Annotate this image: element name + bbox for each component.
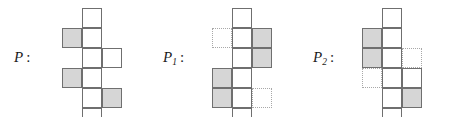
panel-p-cell-r2c1 [82, 48, 102, 68]
panel-p-cell-r2c2 [102, 48, 122, 68]
panel-p1-cell-r5c1 [232, 108, 252, 117]
panel-p2-cell-r4c1 [382, 88, 402, 108]
panel-p2-cell-r0c1 [382, 8, 402, 28]
panel-p2-cell-r3c1 [382, 68, 402, 88]
panel-p-cell-r5c1 [82, 108, 102, 117]
panel-p2-cell-r4c2-shaded [402, 88, 422, 108]
panel-p-grid [62, 8, 122, 117]
panel-p1-cell-r4c2-dotted [252, 88, 272, 108]
panel-p1-cell-r3c1 [232, 68, 252, 88]
panel-p-label-base: P [14, 49, 23, 65]
panel-p1-cell-r4c0-shaded [212, 88, 232, 108]
panel-p-cell-r1c1 [82, 28, 102, 48]
panel-p1-label: P1: [163, 50, 184, 68]
panel-p1-cell-r1c1 [232, 28, 252, 48]
panel-p-cell-r0c1 [82, 8, 102, 28]
panel-p1-cell-r2c1 [232, 48, 252, 68]
panel-p-label: P: [14, 50, 30, 65]
polyomino-figure-strip: P:P1:P2: [0, 0, 450, 117]
panel-p2-cell-r2c1 [382, 48, 402, 68]
panel-p2-label: P2: [313, 50, 334, 68]
panel-p1-cell-r1c2-shaded [252, 28, 272, 48]
panel-p-cell-r3c1 [82, 68, 102, 88]
panel-p1-cell-r4c1 [232, 88, 252, 108]
panel-p-cell-r1c0-shaded [62, 28, 82, 48]
panel-p2-label-colon: : [330, 49, 334, 65]
panel-p2-grid [362, 8, 422, 117]
panel-p-label-colon: : [26, 49, 30, 65]
panel-p2-cell-r3c0-dotted [362, 68, 382, 88]
panel-p1-cell-r3c0-shaded [212, 68, 232, 88]
panel-p2-cell-r2c2-dotted [402, 48, 422, 68]
panel-p2-cell-r3c2 [402, 68, 422, 88]
panel-p2-label-subscript: 2 [322, 57, 327, 67]
panel-p2-label-base: P [313, 49, 322, 65]
panel-p-cell-r3c0-shaded [62, 68, 82, 88]
panel-p1-cell-r2c2-shaded [252, 48, 272, 68]
panel-p1-label-colon: : [180, 49, 184, 65]
panel-p2-cell-r2c0-shaded [362, 48, 382, 68]
panel-p1-grid [212, 8, 272, 117]
panel-p-cell-r4c2-shaded [102, 88, 122, 108]
panel-p1-cell-r1c0-dotted [212, 28, 232, 48]
panel-p1-label-subscript: 1 [172, 57, 177, 67]
panel-p-cell-r4c1 [82, 88, 102, 108]
panel-p1-cell-r0c1 [232, 8, 252, 28]
panel-p2-cell-r1c1 [382, 28, 402, 48]
panel-p1-label-base: P [163, 49, 172, 65]
panel-p2-cell-r5c1 [382, 108, 402, 117]
panel-p2-cell-r1c0-shaded [362, 28, 382, 48]
